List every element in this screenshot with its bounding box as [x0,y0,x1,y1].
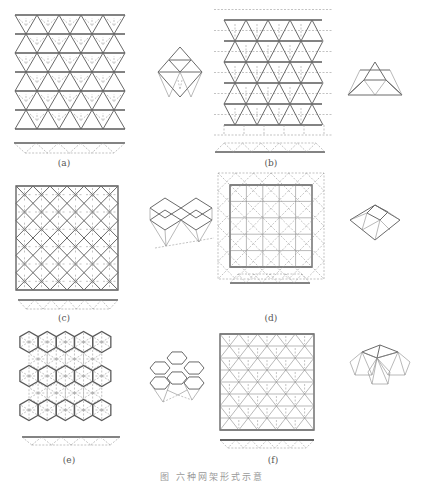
figure-caption: 图 六种网架形式示意 [0,470,424,483]
panel-label-f: (f) [253,455,293,465]
